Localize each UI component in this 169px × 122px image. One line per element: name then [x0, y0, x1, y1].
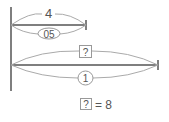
bottom-bar: ? 1 — [11, 46, 158, 86]
top-lower-brace-left — [11, 25, 38, 34]
bottom-lower-brace-left — [11, 65, 78, 78]
top-bar: 4 05 — [11, 6, 86, 40]
answer: ? = 8 — [81, 98, 113, 112]
top-ratio-label: 05 — [43, 29, 55, 40]
bottom-ratio-label: 1 — [83, 73, 89, 84]
tape-diagram: 4 05 ? 1 ? = 8 — [0, 0, 169, 122]
bottom-brace-left — [11, 51, 79, 65]
bottom-lower-brace-right — [93, 65, 158, 78]
bottom-length-label: ? — [83, 47, 89, 58]
top-length-label: 4 — [45, 6, 52, 21]
bottom-brace-right — [92, 51, 158, 65]
top-brace-left — [11, 14, 42, 25]
answer-unknown-label: ? — [83, 99, 89, 110]
top-brace-right — [55, 14, 86, 25]
top-lower-brace-right — [60, 25, 86, 34]
answer-equals-text: = 8 — [95, 98, 112, 112]
